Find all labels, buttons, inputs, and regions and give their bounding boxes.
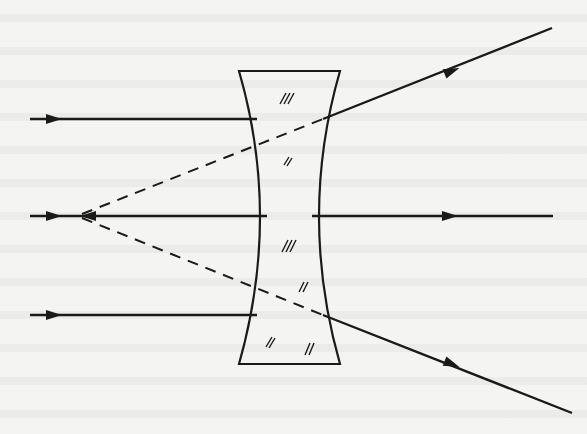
virtual-extension-bottom bbox=[82, 218, 323, 315]
refracted-arrowheads bbox=[442, 63, 461, 371]
arrow-right-icon bbox=[46, 211, 62, 221]
arrow-right-icon bbox=[46, 310, 62, 320]
refracted-ray-top bbox=[323, 28, 552, 119]
lens bbox=[239, 71, 340, 364]
arrow-right-icon bbox=[46, 114, 62, 124]
arrow-right-icon bbox=[442, 211, 458, 221]
lens-outline bbox=[239, 71, 340, 364]
incident-rays bbox=[30, 119, 267, 315]
virtual-extension-top bbox=[82, 119, 323, 214]
lens-hatch-marks bbox=[266, 93, 314, 355]
concave-lens-ray-diagram bbox=[0, 0, 587, 434]
